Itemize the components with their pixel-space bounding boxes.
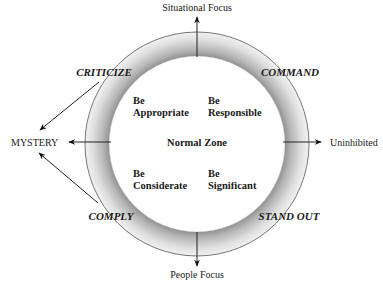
quadrant-line-1: Be	[208, 168, 220, 179]
label-people-focus: People Focus	[170, 269, 224, 280]
mode-comply: COMPLY	[89, 210, 135, 222]
normal-zone-title: Normal Zone	[167, 137, 227, 148]
normal-zone-diagram: Situational Focus People Focus MYSTERY U…	[0, 0, 383, 284]
label-situational-focus: Situational Focus	[162, 2, 232, 13]
mode-stand-out: STAND OUT	[259, 210, 321, 222]
quadrant-line-2: Significant	[208, 180, 257, 191]
quadrant-line-2: Responsible	[208, 107, 262, 118]
mode-command: COMMAND	[261, 66, 319, 78]
quadrant-line-2: Appropriate	[133, 107, 189, 118]
label-uninhibited: Uninhibited	[330, 137, 378, 148]
quadrant-line-1: Be	[133, 168, 145, 179]
mode-criticize: CRITICIZE	[76, 66, 132, 78]
quadrant-line-2: Considerate	[133, 180, 188, 191]
label-mystery: MYSTERY	[11, 137, 58, 148]
quadrant-line-1: Be	[208, 95, 220, 106]
quadrant-line-1: Be	[133, 95, 145, 106]
